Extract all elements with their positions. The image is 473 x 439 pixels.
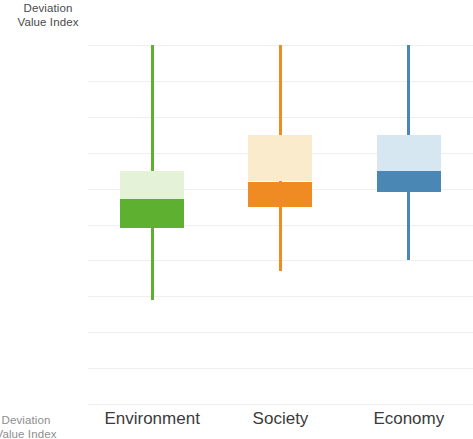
box-upper-quartile xyxy=(248,135,312,182)
box-lower-quartile xyxy=(377,171,441,193)
box-plot-series xyxy=(345,45,473,404)
y-axis-title-secondary-line2: Value Index xyxy=(0,428,64,439)
x-axis-category-label: Environment xyxy=(88,409,216,429)
y-axis-title: Deviation Value Index xyxy=(10,2,86,29)
y-axis-title-secondary-line1: Deviation xyxy=(0,414,64,428)
box-plot-series xyxy=(216,45,344,404)
box-plot-chart: Deviation Value Index Deviation Value In… xyxy=(0,0,473,439)
box-upper-quartile xyxy=(120,171,184,200)
y-axis-title-line2: Value Index xyxy=(10,16,86,30)
plot-area: 1009080706050403020100 xyxy=(88,45,473,404)
box xyxy=(377,135,441,192)
gridline xyxy=(88,404,473,405)
x-axis-category-label: Society xyxy=(216,409,344,429)
box-plot-series xyxy=(88,45,216,404)
x-axis-category-label: Economy xyxy=(345,409,473,429)
box xyxy=(248,135,312,207)
box-lower-quartile xyxy=(248,182,312,207)
box xyxy=(120,171,184,228)
box-upper-quartile xyxy=(377,135,441,171)
y-axis-title-secondary: Deviation Value Index xyxy=(0,414,64,439)
box-lower-quartile xyxy=(120,199,184,228)
y-axis-title-line1: Deviation xyxy=(10,2,86,16)
